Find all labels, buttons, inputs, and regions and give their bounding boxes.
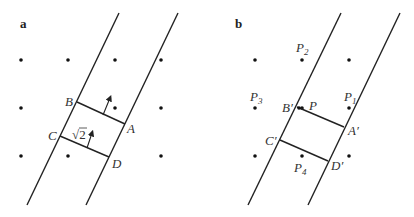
- lattice-point: [19, 106, 23, 110]
- point-label-a-prime: A′: [347, 123, 359, 138]
- segment-BA: [77, 102, 125, 124]
- lattice-point: [253, 106, 257, 110]
- diagram-canvas: aBACD√2bP2P3B′PP1A′C′P4D′: [0, 0, 414, 217]
- right-boundary-line: [308, 13, 400, 205]
- sqrt2-annotation: √2: [72, 127, 86, 142]
- panel-a: aBACD√2: [19, 13, 178, 205]
- panel-b: bP2P3B′PP1A′C′P4D′: [235, 13, 400, 205]
- panel-label: a: [20, 16, 27, 31]
- lattice-point: [113, 58, 117, 62]
- point-label-p4: P4: [293, 160, 307, 177]
- point-label-p3: P3: [249, 89, 263, 106]
- lattice-point: [347, 106, 351, 110]
- lattice-point: [300, 58, 304, 62]
- lattice-point: [159, 58, 163, 62]
- lattice-point: [19, 154, 23, 158]
- normal-arrow-BA: [103, 98, 110, 115]
- lattice-point: [66, 154, 70, 158]
- lattice-point: [19, 58, 23, 62]
- left-boundary-line: [248, 13, 341, 205]
- lattice-point: [347, 58, 351, 62]
- lattice-diagram: aBACD√2bP2P3B′PP1A′C′P4D′: [0, 0, 414, 217]
- point-label-d-prime: D′: [330, 158, 343, 173]
- point-label-p1: P1: [343, 89, 356, 106]
- lattice-point: [66, 58, 70, 62]
- point-label-c: C: [48, 128, 57, 143]
- point-P-dot: [297, 106, 301, 110]
- lattice-point: [347, 154, 351, 158]
- point-label-a: A: [126, 121, 135, 136]
- point-label-p2: P2: [295, 40, 309, 57]
- lattice-point: [253, 154, 257, 158]
- segment-C'D': [280, 140, 328, 161]
- lattice-point: [159, 154, 163, 158]
- point-label-c-prime: C′: [265, 133, 277, 148]
- right-boundary-line: [86, 13, 178, 205]
- point-label-b-prime: B′: [282, 100, 293, 115]
- segment-B'A': [297, 107, 344, 127]
- point-label-b: B: [65, 94, 73, 109]
- panel-label: b: [235, 16, 242, 31]
- lattice-point: [159, 106, 163, 110]
- lattice-point: [113, 106, 117, 110]
- lattice-point: [253, 58, 257, 62]
- lattice-point: [300, 154, 304, 158]
- normal-arrow-CD: [87, 133, 92, 148]
- point-label-d: D: [111, 156, 122, 171]
- point-label-p: P: [308, 98, 317, 113]
